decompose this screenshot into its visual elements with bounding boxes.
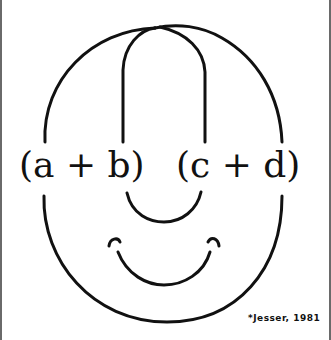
face-outline-bottom xyxy=(44,196,282,322)
smile xyxy=(118,252,210,285)
face-outline-top-right xyxy=(155,26,282,142)
face-outline-top-left xyxy=(45,28,155,142)
nose-bottom-arc xyxy=(127,192,201,222)
smile-left-dimple xyxy=(109,239,120,246)
figure-frame: (a + b) (c + d) *Jesser, 1981 xyxy=(0,0,331,340)
left-expression: (a + b) xyxy=(19,145,145,185)
smile-right-dimple xyxy=(208,239,219,246)
right-expression: (c + d) xyxy=(176,145,300,185)
nose-loop-left xyxy=(123,28,155,142)
nose-loop-right xyxy=(160,27,205,142)
credit-text: *Jesser, 1981 xyxy=(248,313,320,323)
